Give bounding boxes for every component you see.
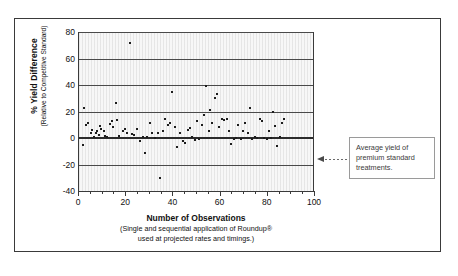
x-tick-minor — [113, 191, 114, 194]
scatter-chart: % Yield Difference (Relative to Competit… — [15, 19, 442, 253]
data-point — [106, 136, 108, 138]
x-tick-minor — [102, 191, 103, 194]
data-point — [90, 132, 92, 134]
x-tick-minor — [161, 191, 162, 194]
data-point — [201, 124, 203, 126]
data-point — [196, 120, 198, 122]
data-point — [216, 93, 218, 95]
data-point — [93, 136, 95, 138]
data-point — [176, 146, 178, 148]
x-tick-minor — [184, 191, 185, 194]
x-tick-minor — [208, 191, 209, 194]
x-tick-minor — [302, 191, 303, 194]
data-point — [266, 138, 268, 140]
y-axis-title-main: % Yield Difference — [29, 1, 39, 151]
data-point — [91, 129, 93, 131]
x-tick-major — [125, 191, 126, 196]
x-tick-major — [314, 191, 315, 196]
gridline — [79, 112, 313, 113]
y-tick-label: 80 — [49, 28, 75, 37]
data-point — [146, 136, 148, 138]
x-axis-title-sub1: (Single and sequential application of Ro… — [55, 224, 337, 233]
data-point — [276, 145, 278, 147]
y-tick-label: 60 — [49, 55, 75, 64]
annotation-line-2: premium standard — [356, 153, 428, 163]
y-tick-label: 0 — [49, 134, 75, 143]
data-point — [151, 132, 153, 134]
data-point — [159, 177, 161, 179]
data-point — [115, 102, 117, 104]
data-point — [249, 107, 251, 109]
data-point — [247, 132, 249, 134]
data-point — [157, 132, 159, 134]
data-point — [279, 136, 281, 138]
y-tick-label: 20 — [49, 108, 75, 117]
data-point — [235, 137, 237, 139]
x-tick-minor — [279, 191, 280, 194]
dotted-left-arrow-icon — [315, 156, 351, 163]
data-point — [281, 122, 283, 124]
x-tick-minor — [290, 191, 291, 194]
annotation-line-3: treatments. — [356, 163, 428, 173]
data-point — [211, 122, 213, 124]
data-point — [133, 134, 135, 136]
data-point — [99, 125, 101, 127]
data-point — [83, 107, 85, 109]
data-point — [230, 143, 232, 145]
x-axis-title-main: Number of Observations — [55, 213, 337, 223]
x-tick-minor — [243, 191, 244, 194]
arrow-dotted-line — [325, 159, 349, 160]
data-point — [139, 140, 141, 142]
data-point — [274, 125, 276, 127]
x-tick-minor — [255, 191, 256, 194]
data-point — [154, 137, 156, 139]
data-point — [228, 130, 230, 132]
data-point — [268, 130, 270, 132]
data-point — [237, 124, 239, 126]
arrow-head — [317, 156, 324, 162]
data-point — [142, 136, 144, 138]
data-point — [251, 138, 253, 140]
data-point — [174, 126, 176, 128]
y-tick-label: -40 — [49, 187, 75, 196]
y-axis-ticks: 806040200-20-40 — [45, 32, 75, 191]
x-tick-minor — [231, 191, 232, 194]
x-tick-label: 0 — [76, 198, 81, 207]
data-point — [169, 122, 171, 124]
data-point — [242, 130, 244, 132]
data-point — [189, 127, 191, 129]
x-tick-label: 40 — [168, 198, 177, 207]
data-point — [82, 144, 84, 146]
gridline — [79, 85, 313, 86]
y-tick-label: -20 — [49, 161, 75, 170]
data-point — [118, 135, 120, 137]
y-tick-label: 40 — [49, 81, 75, 90]
data-point — [240, 138, 242, 140]
x-tick-major — [267, 191, 268, 196]
data-point — [116, 119, 118, 121]
data-point — [103, 130, 105, 132]
x-tick-major — [172, 191, 173, 196]
data-point — [87, 122, 89, 124]
data-point — [187, 129, 189, 131]
x-tick-minor — [137, 191, 138, 194]
annotation-callout: Average yield of premium standard treatm… — [349, 137, 435, 179]
x-tick-minor — [149, 191, 150, 194]
x-tick-label: 80 — [262, 198, 271, 207]
data-point — [218, 126, 220, 128]
data-point — [98, 134, 100, 136]
data-point — [144, 152, 146, 154]
x-tick-label: 60 — [215, 198, 224, 207]
x-tick-major — [220, 191, 221, 196]
data-point — [164, 118, 166, 120]
x-tick-minor — [90, 191, 91, 194]
data-point — [112, 126, 114, 128]
data-point — [272, 111, 274, 113]
data-point — [85, 124, 87, 126]
data-point — [167, 124, 169, 126]
annotation-line-1: Average yield of — [356, 143, 428, 153]
x-tick-label: 100 — [307, 198, 321, 207]
x-axis-title-sub2: used at projected rates and timings.) — [55, 234, 337, 243]
data-point — [162, 130, 164, 132]
data-point — [184, 142, 186, 144]
